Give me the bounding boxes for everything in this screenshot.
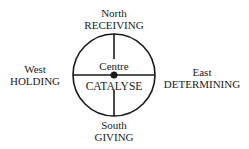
south-label: South GIVING: [84, 119, 144, 143]
west-quality: HOLDING: [2, 75, 68, 87]
west-label: West HOLDING: [2, 63, 68, 87]
centre-quality: CATALYSE: [79, 80, 149, 92]
north-quality: RECEIVING: [84, 19, 144, 31]
west-direction: West: [2, 63, 68, 75]
centre-text: Centre: [94, 60, 134, 72]
east-quality: DETERMINING: [162, 78, 242, 90]
centre-dot: [111, 72, 118, 79]
south-quality: GIVING: [84, 131, 144, 143]
east-direction: East: [162, 66, 242, 78]
east-label: East DETERMINING: [162, 66, 242, 90]
south-direction: South: [84, 119, 144, 131]
north-label: North RECEIVING: [84, 7, 144, 31]
centre-label: Centre: [94, 60, 134, 72]
north-direction: North: [84, 7, 144, 19]
centre-quality-label: CATALYSE: [79, 80, 149, 92]
